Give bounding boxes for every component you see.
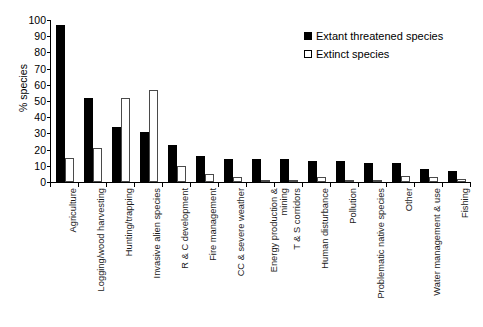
x-axis-category-label: Pollution <box>349 188 359 224</box>
x-axis-label-slot: Agriculture <box>54 188 74 320</box>
y-axis-tick-label: 0 <box>16 177 46 187</box>
x-axis-label-slot: Hunting/trapping <box>110 188 130 320</box>
y-axis-tick-mark <box>47 52 51 53</box>
x-axis-label-slot: CC & severe weather <box>222 188 242 320</box>
x-axis-tick-mark <box>218 182 219 187</box>
y-axis-tick-mark <box>47 69 51 70</box>
bar-group <box>191 20 219 182</box>
y-axis-tick-mark <box>47 20 51 21</box>
chart-legend: Extant threatened speciesExtinct species <box>304 30 479 66</box>
x-axis-category-label: Hunting/trapping <box>125 188 135 256</box>
x-axis-label-slot: Other <box>390 188 410 320</box>
bar-group <box>247 20 275 182</box>
x-axis-label-slot: Pollution <box>334 188 354 320</box>
bar-group <box>163 20 191 182</box>
x-axis-category-label: Water management & use <box>433 188 443 296</box>
bar-group <box>79 20 107 182</box>
x-axis-category-label: Fire management <box>209 188 219 261</box>
y-axis-tick-mark <box>47 117 51 118</box>
bar-extant <box>280 159 289 182</box>
x-axis-category-label: Other <box>405 188 415 211</box>
y-axis-tick-mark <box>47 101 51 102</box>
x-axis-label-slot: R & C development <box>166 188 186 320</box>
x-axis-tick-mark <box>442 182 443 187</box>
x-axis-category-label: R & C development <box>181 188 191 269</box>
x-axis-category-label: Human disturbance <box>321 188 331 269</box>
bar-extinct <box>205 174 214 182</box>
bar-group <box>275 20 303 182</box>
x-axis-tick-mark <box>134 182 135 187</box>
y-axis-tick-label: 100 <box>16 15 46 25</box>
x-axis-label-slot: Fishing <box>446 188 466 320</box>
x-axis-label-slot: Invasive alien species <box>138 188 158 320</box>
x-axis-category-label: Fishing <box>461 188 471 218</box>
x-axis-category-label: Invasive alien species <box>153 188 163 278</box>
legend-entry: Extant threatened species <box>304 30 479 42</box>
y-axis-tick-label: 70 <box>16 64 46 74</box>
bar-extant <box>392 163 401 182</box>
y-axis-tick-label: 30 <box>16 128 46 138</box>
y-axis-tick-labels: 1009080706050403020100 <box>16 14 46 188</box>
bar-extinct <box>65 158 74 182</box>
bar-extant <box>196 156 205 182</box>
bar-extinct <box>93 148 102 182</box>
x-axis-tick-mark <box>302 182 303 187</box>
x-axis-tick-mark <box>106 182 107 187</box>
bar-group <box>107 20 135 182</box>
y-axis-tick-mark <box>47 133 51 134</box>
bar-extinct <box>121 98 130 182</box>
x-axis-tick-mark <box>50 182 51 187</box>
bar-extant <box>168 145 177 182</box>
x-axis-category-label: Problematic native species <box>377 188 387 299</box>
bar-extant <box>140 132 149 182</box>
x-axis-tick-mark <box>470 182 471 187</box>
bar-extant <box>420 169 429 182</box>
bar-extant <box>112 127 121 182</box>
bar-extant <box>308 161 317 182</box>
x-axis-category-label: Agriculture <box>69 188 79 232</box>
bar-extant <box>252 159 261 182</box>
y-axis-tick-label: 90 <box>16 31 46 41</box>
bar-extant <box>224 159 233 182</box>
bar-group <box>135 20 163 182</box>
x-axis-category-label: CC & severe weather <box>237 188 247 276</box>
x-axis-tick-mark <box>274 182 275 187</box>
x-axis-tick-mark <box>190 182 191 187</box>
legend-entry-label: Extinct species <box>316 48 389 60</box>
x-axis-tick-marks <box>50 182 470 187</box>
bar-extinct <box>149 90 158 182</box>
x-axis-label-slot: T & S corridors <box>278 188 298 320</box>
bar-chart-figure: % species 1009080706050403020100 Agricul… <box>0 0 483 327</box>
x-axis-label-slot: Water management & use <box>418 188 438 320</box>
bar-group <box>51 20 79 182</box>
y-axis-tick-mark <box>47 36 51 37</box>
x-axis-tick-mark <box>386 182 387 187</box>
legend-entry-label: Extant threatened species <box>316 30 443 42</box>
y-axis-tick-mark <box>47 85 51 86</box>
y-axis-tick-label: 40 <box>16 112 46 122</box>
y-axis-tick-mark <box>47 150 51 151</box>
hollow-square-icon <box>304 50 312 58</box>
bar-group <box>219 20 247 182</box>
x-axis-tick-mark <box>162 182 163 187</box>
x-axis-category-labels: AgricultureLogging/wood harvestingHuntin… <box>50 188 470 323</box>
filled-square-icon <box>304 32 312 40</box>
y-axis-tick-mark <box>47 166 51 167</box>
legend-entry: Extinct species <box>304 48 479 60</box>
y-axis-tick-label: 20 <box>16 145 46 155</box>
x-axis-tick-mark <box>246 182 247 187</box>
bar-extant <box>84 98 93 182</box>
y-axis-tick-label: 50 <box>16 96 46 106</box>
x-axis-label-slot: Energy production & mining <box>250 188 270 320</box>
bar-extant <box>364 163 373 182</box>
x-axis-tick-mark <box>414 182 415 187</box>
x-axis-tick-mark <box>330 182 331 187</box>
x-axis-category-label: T & S corridors <box>293 188 303 250</box>
y-axis-tick-label: 60 <box>16 80 46 90</box>
x-axis-category-label: Logging/wood harvesting <box>97 188 107 291</box>
x-axis-label-slot: Human disturbance <box>306 188 326 320</box>
x-axis-label-slot: Logging/wood harvesting <box>82 188 102 320</box>
x-axis-tick-mark <box>78 182 79 187</box>
bar-extinct <box>177 166 186 182</box>
x-axis-tick-mark <box>358 182 359 187</box>
